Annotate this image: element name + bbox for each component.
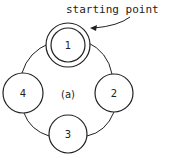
arrowhead-icon	[90, 25, 97, 31]
node-1: 1	[46, 23, 90, 67]
node-4: 4	[3, 73, 43, 113]
edge-1-2	[87, 42, 112, 74]
node-label: 1	[65, 40, 71, 51]
arrow-icon	[94, 17, 130, 28]
edge-2-3	[87, 112, 114, 136]
node-2: 2	[95, 74, 133, 112]
node-label: 4	[20, 88, 26, 99]
starting-point-label: starting point	[66, 3, 159, 16]
diagram-caption: (a)	[61, 89, 75, 100]
cycle-diagram: 1 2 3 4 (a) starting point	[0, 0, 169, 160]
node-label: 2	[111, 88, 117, 99]
node-label: 3	[65, 129, 71, 140]
node-3: 3	[49, 115, 87, 153]
edge-3-4	[24, 113, 49, 136]
